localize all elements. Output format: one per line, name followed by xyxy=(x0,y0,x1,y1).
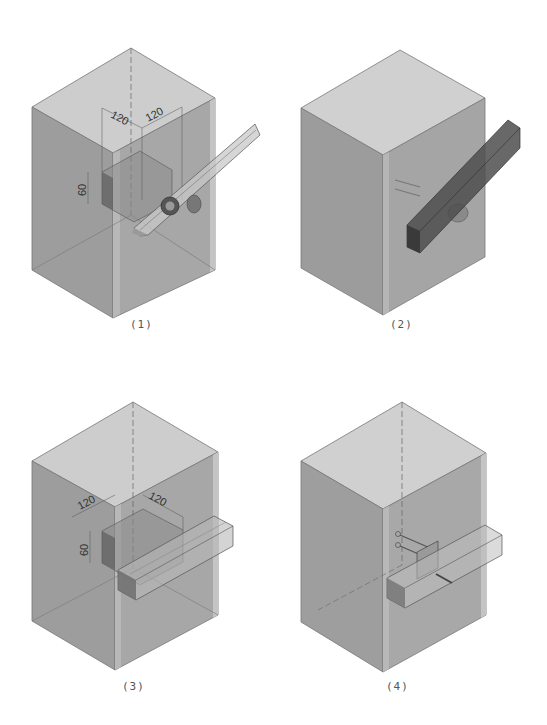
figure-1: 120 120 60 xyxy=(32,48,260,318)
dim-height: 60 xyxy=(78,544,90,556)
caption-figure-4: (4) xyxy=(386,680,409,693)
diagram-canvas: 120 120 60 xyxy=(0,0,547,725)
dim-height: 60 xyxy=(76,184,88,196)
figure-3: 120 120 60 xyxy=(32,402,233,670)
figure-2 xyxy=(301,50,520,315)
figure-4 xyxy=(301,402,502,672)
caption-figure-2: (2) xyxy=(390,318,413,331)
caption-figure-3: (3) xyxy=(122,680,145,693)
caption-figure-1: (1) xyxy=(130,318,153,331)
block-right-rim xyxy=(210,98,215,272)
